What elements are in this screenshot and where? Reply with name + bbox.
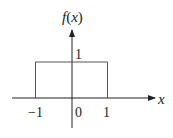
tick-label-1: 1 (103, 105, 110, 120)
height-label-1: 1 (75, 47, 82, 62)
x-axis-label: x (157, 91, 165, 107)
tick-label-neg1: −1 (28, 105, 43, 120)
tick-label-0: 0 (75, 105, 82, 120)
pulse-diagram: f(x) x −1 0 1 1 (0, 0, 173, 138)
y-axis-label: f(x) (62, 9, 83, 26)
